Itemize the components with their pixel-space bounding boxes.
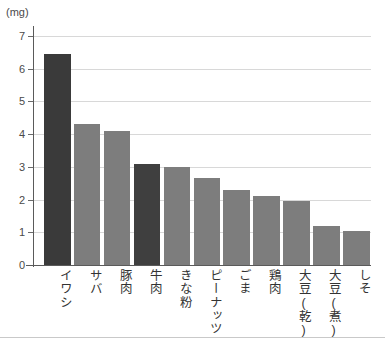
x-axis-label: サバ — [74, 269, 101, 296]
bottom-divider — [0, 337, 385, 338]
bar — [253, 196, 280, 265]
bar — [164, 167, 191, 265]
x-axis-label: しそ — [343, 269, 370, 296]
y-tick-label: 0 — [6, 259, 25, 271]
bar — [223, 190, 250, 265]
x-axis-label: ごま — [223, 269, 250, 296]
y-tick-label: 1 — [6, 226, 25, 238]
bar — [283, 201, 310, 265]
x-axis-label: 牛肉 — [134, 269, 161, 296]
y-tick-label: 3 — [6, 161, 25, 173]
bar — [74, 124, 101, 265]
x-axis-line — [26, 265, 371, 266]
plot-area — [33, 36, 371, 265]
x-axis-label: 豚肉 — [104, 269, 131, 296]
bar — [343, 231, 370, 265]
bar — [44, 54, 71, 265]
x-axis-label: 鶏肉 — [253, 269, 280, 296]
x-axis-label: きな粉 — [164, 269, 191, 309]
y-tick-label: 7 — [6, 30, 25, 42]
bar — [134, 164, 161, 265]
x-axis-label: ピーナッツ — [194, 269, 221, 336]
y-tick-label: 2 — [6, 194, 25, 206]
x-axis-label: 大豆(乾) — [283, 269, 310, 338]
y-tick-label: 5 — [6, 95, 25, 107]
y-tick-label: 6 — [6, 63, 25, 75]
x-axis-label: イワシ — [44, 269, 71, 309]
bar — [104, 131, 131, 265]
y-axis-unit-label: (mg) — [6, 6, 29, 18]
y-tick-label: 4 — [6, 128, 25, 140]
bar — [313, 226, 340, 265]
bar — [194, 178, 221, 265]
bar-chart: (mg) 76543210 イワシサバ豚肉牛肉きな粉ピーナッツごま鶏肉大豆(乾)… — [0, 0, 385, 339]
x-axis-label: 大豆(煮) — [313, 269, 340, 338]
